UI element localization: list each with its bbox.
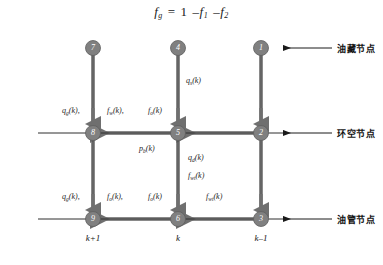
annotation-label-reservoir-node: 油藏节点: [337, 42, 375, 55]
node-circle-7[interactable]: [86, 41, 101, 56]
node-circle-2[interactable]: [254, 126, 269, 141]
column-label-k-minus-1: k–1: [255, 233, 268, 243]
flow-label-pb-k: pb(k): [139, 144, 155, 154]
node-circle-8[interactable]: [86, 126, 101, 141]
flow-label-qg-k-bottom: qg(k),: [62, 192, 80, 202]
flow-label-fo2-k-bottom: fo(k): [148, 192, 162, 202]
column-label-k-plus-1: k+1: [86, 233, 101, 243]
flow-label-qs-k-top: qs(k): [186, 76, 201, 86]
column-label-k: k: [176, 233, 180, 243]
node-circle-3[interactable]: [254, 212, 269, 227]
flow-label-fwt-k-bottom: fwt(k): [206, 192, 222, 202]
flow-label-fo-k-mid: fo(k): [148, 106, 162, 116]
flow-label-fwt-k: fwt(k): [188, 171, 204, 181]
flow-label-fo-k-bottom: fo(k),: [107, 192, 123, 202]
diagram-canvas: [0, 0, 383, 265]
node-circle-5[interactable]: [171, 126, 186, 141]
node-circle-4[interactable]: [171, 41, 186, 56]
annotation-label-annulus-node: 环空节点: [337, 127, 375, 140]
flow-label-qd-k: qd(k): [188, 153, 204, 163]
diagram-root: fg=1–f1–f2: [0, 0, 383, 265]
annotation-arrows: [283, 48, 332, 219]
node-circle-9[interactable]: [86, 212, 101, 227]
node-circle-6[interactable]: [171, 212, 186, 227]
flow-label-fw-k-mid: fw(k),: [107, 106, 124, 116]
node-circle-1[interactable]: [254, 41, 269, 56]
flow-label-qg-k-mid: qg(k),: [62, 106, 80, 116]
annotation-label-tubing-node: 油管节点: [337, 213, 375, 226]
